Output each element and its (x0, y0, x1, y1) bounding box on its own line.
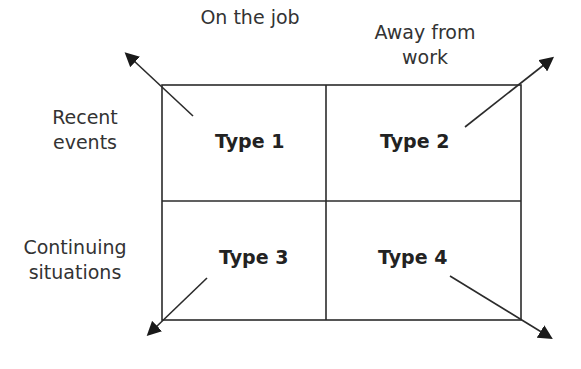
cell-type-3: Type 3 (219, 246, 288, 268)
row-header-recent-events: Recent events (30, 105, 140, 155)
row-header-line: Continuing (15, 235, 135, 260)
column-header-line: Away from (360, 20, 490, 45)
quadrant-grid (0, 0, 581, 369)
cell-type-1: Type 1 (215, 130, 284, 152)
cell-type-4: Type 4 (378, 246, 447, 268)
row-header-line: situations (15, 260, 135, 285)
arrow-top-right-icon (465, 64, 545, 127)
column-header-away-from-work: Away from work (360, 20, 490, 70)
column-header-line: On the job (185, 5, 315, 30)
arrow-top-left-icon (133, 60, 193, 116)
row-header-line: Recent (30, 105, 140, 130)
row-header-line: events (30, 130, 140, 155)
column-header-on-the-job: On the job (185, 5, 315, 30)
grid-outline (162, 85, 521, 320)
cell-type-2: Type 2 (380, 130, 449, 152)
column-header-line: work (360, 45, 490, 70)
row-header-continuing-situations: Continuing situations (15, 235, 135, 285)
arrow-bottom-right-icon (450, 276, 543, 333)
